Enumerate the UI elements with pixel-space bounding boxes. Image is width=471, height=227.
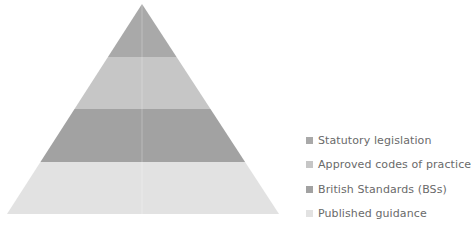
legend-swatch [306,137,313,144]
tier-british-standards [40,109,245,162]
legend-item-published-guidance: Published guidance [306,202,471,227]
legend-label: Approved codes of practice [318,158,471,171]
legend: Statutory legislation Approved codes of … [306,128,471,226]
legend-swatch [306,210,313,217]
legend-item-british-standards: British Standards (BSs) [306,177,471,202]
tier-published-guidance [7,162,279,214]
legend-label: British Standards (BSs) [318,183,447,196]
legend-swatch [306,186,313,193]
legend-label: Statutory legislation [318,134,431,147]
legend-swatch [306,161,313,168]
tier-approved-codes-of-practice [75,57,211,109]
pyramid-diagram [0,0,290,220]
legend-item-approved-codes: Approved codes of practice [306,153,471,178]
legend-item-statutory-legislation: Statutory legislation [306,128,471,153]
legend-label: Published guidance [318,207,427,220]
